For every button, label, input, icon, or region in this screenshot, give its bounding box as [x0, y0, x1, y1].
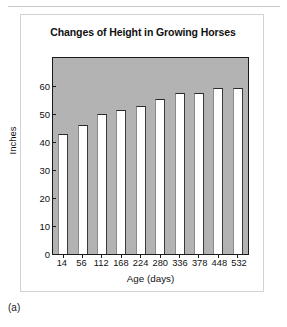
x-tick-mark [237, 254, 238, 258]
x-tick-mark [198, 254, 199, 258]
bar-slot [132, 59, 150, 254]
y-tick-mark [52, 142, 56, 143]
x-axis-title: Age (days) [52, 273, 249, 284]
bar [116, 110, 126, 253]
x-tick-mark [140, 254, 141, 258]
y-axis-labels: 0102030405060 [21, 57, 50, 255]
y-tick-mark [52, 198, 56, 199]
y-tick-label: 10 [28, 220, 50, 231]
y-tick-label: 0 [28, 248, 50, 259]
y-tick-mark [52, 226, 56, 227]
bar [97, 114, 107, 253]
bar [194, 93, 204, 253]
x-tick-mark [179, 254, 180, 258]
x-tick-label: 168 [112, 258, 131, 268]
x-tick-mark [82, 254, 83, 258]
bar [136, 106, 146, 254]
x-tick-label: 56 [72, 258, 91, 268]
top-divider-rule [8, 6, 280, 7]
x-tick-label: 448 [210, 258, 229, 268]
x-tick-mark [63, 254, 64, 258]
bar [155, 99, 165, 254]
y-tick-label: 20 [28, 192, 50, 203]
bar-slot [209, 59, 227, 254]
x-axis-labels: 1456112168224280336378448532 [52, 258, 249, 268]
figure-caption: (a) [8, 302, 20, 313]
y-axis-title: Inches [7, 127, 18, 155]
x-tick-label: 112 [92, 258, 111, 268]
bar-slot [73, 59, 91, 254]
bar-slot [170, 59, 188, 254]
y-tick-mark [52, 114, 56, 115]
bar [58, 134, 68, 254]
plot-frame [52, 57, 249, 255]
bar [175, 93, 185, 253]
bar-slot [151, 59, 169, 254]
bar [78, 125, 88, 253]
x-tick-mark [218, 254, 219, 258]
y-tick-mark [52, 254, 56, 255]
bar-slot [112, 59, 130, 254]
x-tick-label: 378 [190, 258, 209, 268]
y-tick-label: 60 [28, 81, 50, 92]
x-tick-label: 336 [171, 258, 190, 268]
bar-slot [54, 59, 72, 254]
x-tick-mark [121, 254, 122, 258]
bar-slot [93, 59, 111, 254]
y-tick-mark [52, 170, 56, 171]
x-tick-label: 532 [230, 258, 249, 268]
y-tick-label: 40 [28, 137, 50, 148]
x-tick-label: 280 [151, 258, 170, 268]
chart-title: Changes of Height in Growing Horses [21, 26, 265, 38]
bar [233, 88, 243, 254]
figure-container: Changes of Height in Growing Horses 0102… [20, 14, 264, 292]
y-tick-label: 30 [28, 164, 50, 175]
y-tick-mark [52, 86, 56, 87]
x-tick-mark [101, 254, 102, 258]
y-tick-label: 50 [28, 109, 50, 120]
x-tick-mark [160, 254, 161, 258]
bar [213, 88, 223, 254]
bars-layer [54, 59, 248, 254]
x-tick-label: 224 [131, 258, 150, 268]
bar-slot [190, 59, 208, 254]
bar-slot [229, 59, 247, 254]
x-tick-label: 14 [53, 258, 72, 268]
